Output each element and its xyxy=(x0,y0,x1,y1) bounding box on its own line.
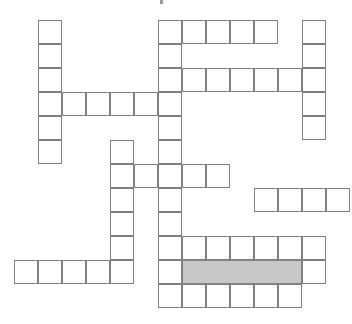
crossword-cell[interactable] xyxy=(182,20,206,44)
crossword-cell[interactable] xyxy=(206,20,230,44)
crossword-cell[interactable] xyxy=(38,20,62,44)
crossword-cell[interactable] xyxy=(182,236,206,260)
crossword-cell[interactable] xyxy=(38,260,62,284)
crossword-cell[interactable] xyxy=(158,236,182,260)
crossword-cell[interactable] xyxy=(110,188,134,212)
crossword-cell[interactable] xyxy=(278,68,302,92)
crossword-cell[interactable] xyxy=(302,20,326,44)
crossword-cell[interactable] xyxy=(206,164,230,188)
crossword-cell[interactable] xyxy=(230,236,254,260)
crossword-cell[interactable] xyxy=(110,164,134,188)
crossword-cell[interactable] xyxy=(110,140,134,164)
crossword-cell[interactable] xyxy=(302,188,326,212)
crossword-cell[interactable] xyxy=(62,92,86,116)
crossword-cell[interactable] xyxy=(206,284,230,308)
crossword-cell[interactable] xyxy=(254,188,278,212)
crossword-cell[interactable] xyxy=(302,260,326,284)
crossword-cell[interactable] xyxy=(158,92,182,116)
crossword-cell[interactable] xyxy=(182,164,206,188)
crossword-cell[interactable] xyxy=(38,140,62,164)
crossword-cell[interactable] xyxy=(110,236,134,260)
crossword-cell[interactable] xyxy=(254,284,278,308)
crossword-cell[interactable] xyxy=(206,68,230,92)
crossword-cell[interactable] xyxy=(158,260,182,284)
crossword-cell[interactable] xyxy=(38,68,62,92)
crossword-cell[interactable] xyxy=(230,284,254,308)
crossword-cell[interactable] xyxy=(38,44,62,68)
crossword-cell[interactable] xyxy=(158,68,182,92)
crossword-cell[interactable] xyxy=(230,68,254,92)
crossword-cell[interactable] xyxy=(158,212,182,236)
crossword-cell[interactable] xyxy=(86,92,110,116)
crossword-cell[interactable] xyxy=(206,236,230,260)
crossword-cell[interactable] xyxy=(86,260,110,284)
crossword-cell[interactable] xyxy=(302,68,326,92)
crossword-cell[interactable] xyxy=(158,284,182,308)
crossword-cell[interactable] xyxy=(278,284,302,308)
crossword-shaded-answer-band[interactable] xyxy=(182,260,302,284)
crossword-cell[interactable] xyxy=(302,236,326,260)
crossword-cell[interactable] xyxy=(134,164,158,188)
crossword-cell[interactable] xyxy=(158,116,182,140)
crossword-cell[interactable] xyxy=(158,20,182,44)
crossword-cell[interactable] xyxy=(254,68,278,92)
crossword-cell[interactable] xyxy=(254,20,278,44)
crossword-cell[interactable] xyxy=(38,92,62,116)
crossword-cell[interactable] xyxy=(302,116,326,140)
crossword-cell[interactable] xyxy=(38,116,62,140)
crossword-cell[interactable] xyxy=(182,68,206,92)
crossword-cell[interactable] xyxy=(278,236,302,260)
crossword-cell[interactable] xyxy=(62,260,86,284)
crossword-cell[interactable] xyxy=(134,92,158,116)
crossword-puzzle-grid xyxy=(0,0,352,324)
crossword-cells-layer xyxy=(0,0,352,324)
crossword-cell[interactable] xyxy=(278,188,302,212)
crossword-cell[interactable] xyxy=(110,260,134,284)
crossword-cell[interactable] xyxy=(230,20,254,44)
crossword-cell[interactable] xyxy=(254,236,278,260)
crossword-cell[interactable] xyxy=(158,140,182,164)
top-speck xyxy=(160,0,163,4)
crossword-cell[interactable] xyxy=(110,212,134,236)
crossword-cell[interactable] xyxy=(158,188,182,212)
crossword-cell[interactable] xyxy=(302,44,326,68)
crossword-cell[interactable] xyxy=(182,284,206,308)
crossword-cell[interactable] xyxy=(110,92,134,116)
crossword-cell[interactable] xyxy=(302,92,326,116)
crossword-cell[interactable] xyxy=(326,188,350,212)
crossword-cell[interactable] xyxy=(14,260,38,284)
crossword-cell[interactable] xyxy=(158,44,182,68)
crossword-cell[interactable] xyxy=(158,164,182,188)
